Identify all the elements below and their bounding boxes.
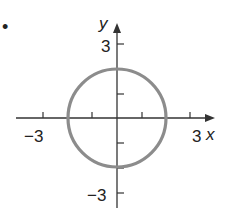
circle-graph: • y 3 −3 −3 3 x: [0, 0, 232, 208]
x-tick-label-3: 3: [192, 127, 201, 146]
y-tick-label-neg3: −3: [87, 186, 106, 205]
bullet: •: [2, 17, 8, 37]
x-axis-label: x: [205, 125, 215, 144]
y-tick-label-3: 3: [101, 37, 110, 56]
x-tick-label-neg3: −3: [24, 127, 43, 146]
y-axis-label: y: [98, 14, 109, 33]
y-axis-arrow-icon: [113, 23, 121, 33]
x-axis-arrow-icon: [205, 114, 215, 122]
